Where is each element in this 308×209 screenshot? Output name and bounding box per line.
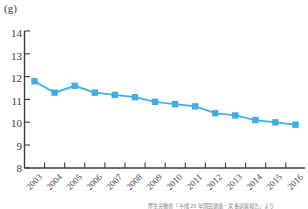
data-point-marker xyxy=(212,110,218,116)
data-point-marker xyxy=(252,117,258,123)
x-axis-ticks xyxy=(45,163,286,169)
data-point-marker xyxy=(192,103,198,109)
data-point-marker xyxy=(132,94,138,100)
data-point-marker xyxy=(232,112,238,118)
data-point-marker xyxy=(51,89,57,95)
y-axis-ticks xyxy=(25,31,31,168)
data-point-marker xyxy=(172,101,178,107)
data-point-marker xyxy=(92,89,98,95)
data-point-marker xyxy=(152,99,158,105)
data-point-marker xyxy=(272,119,278,125)
data-point-marker xyxy=(292,121,298,127)
data-point-marker xyxy=(112,92,118,98)
data-point-marker xyxy=(71,83,77,89)
chart-container: (g) 14 13 12 11 10 9 8 xyxy=(0,0,308,209)
data-point-marker xyxy=(31,78,37,84)
source-note: 厚生労働省「平成 29 年国民健康・栄養調査報告」より xyxy=(148,202,274,209)
